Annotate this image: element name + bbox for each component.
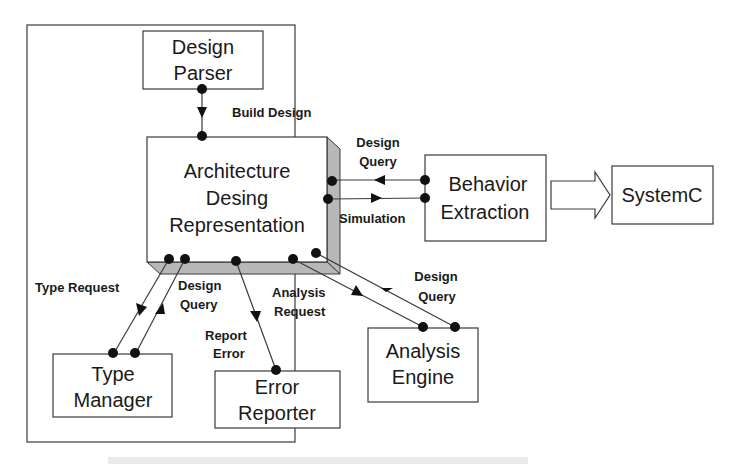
arrowhead-up-icon bbox=[155, 303, 165, 314]
analysis-engine-label-line2: Engine bbox=[392, 366, 454, 388]
arrowhead-left-icon bbox=[374, 175, 385, 185]
systemc-label: SystemC bbox=[621, 184, 702, 206]
behavior-design-query-label-line2: Query bbox=[359, 154, 397, 169]
design-parser-label-line1: Design bbox=[172, 36, 234, 58]
type-design-query-label-line1: Design bbox=[178, 278, 221, 293]
port-dot bbox=[327, 176, 337, 186]
architecture-label-line1: Architecture bbox=[184, 160, 291, 182]
simulation-label: Simulation bbox=[339, 211, 406, 226]
node-systemc: SystemC bbox=[612, 166, 713, 224]
node-design-parser: Design Parser bbox=[143, 31, 263, 89]
port-dot bbox=[450, 322, 460, 332]
port-dot bbox=[420, 175, 430, 185]
port-dot bbox=[231, 256, 241, 266]
port-dot bbox=[418, 322, 428, 332]
behavior-extraction-label-line2: Extraction bbox=[441, 201, 530, 223]
analysis-engine-label-line1: Analysis bbox=[386, 340, 460, 362]
port-dot bbox=[323, 194, 333, 204]
port-dot bbox=[197, 84, 207, 94]
analysis-design-query-label-line2: Query bbox=[418, 289, 456, 304]
architecture-label-line3: Representation bbox=[169, 214, 305, 236]
analysis-design-query-label-line1: Design bbox=[414, 269, 457, 284]
arrowhead-left-icon bbox=[381, 288, 393, 292]
error-reporter-label-line1: Error bbox=[255, 376, 300, 398]
port-dot bbox=[420, 193, 430, 203]
port-dot bbox=[197, 131, 207, 141]
port-dot bbox=[130, 348, 140, 358]
type-manager-label-line2: Manager bbox=[74, 389, 153, 411]
arrowhead-down-icon bbox=[197, 107, 207, 118]
node-error-reporter: Error Reporter bbox=[215, 371, 340, 428]
port-dot bbox=[108, 348, 118, 358]
architecture-diagram: Design Parser Architecture Desing Repres… bbox=[0, 0, 734, 464]
node-type-manager: Type Manager bbox=[53, 354, 172, 417]
build-design-label: Build Design bbox=[232, 105, 312, 120]
design-parser-label-line2: Parser bbox=[174, 62, 233, 84]
node-behavior-extraction: Behavior Extraction bbox=[425, 155, 546, 241]
edge-build-design bbox=[197, 84, 207, 141]
report-error-label-line2: Error bbox=[213, 346, 245, 361]
edge-behavior-design-query bbox=[327, 175, 430, 186]
arrowhead-right-icon bbox=[371, 193, 382, 203]
architecture-label-line2: Desing bbox=[206, 187, 268, 209]
type-request-label: Type Request bbox=[35, 280, 120, 295]
analysis-request-label-line1: Analysis bbox=[272, 285, 325, 300]
node-analysis-engine: Analysis Engine bbox=[368, 328, 478, 402]
port-dot bbox=[180, 254, 190, 264]
port-dot bbox=[288, 254, 298, 264]
behavior-design-query-label-line1: Design bbox=[356, 135, 399, 150]
type-design-query-label-line2: Query bbox=[180, 297, 218, 312]
behavior-extraction-label-line1: Behavior bbox=[449, 173, 528, 195]
output-arrow-icon bbox=[551, 172, 610, 218]
arrowhead-down-icon bbox=[250, 311, 261, 322]
error-reporter-label-line2: Reporter bbox=[238, 402, 316, 424]
report-error-label-line1: Report bbox=[205, 328, 248, 343]
architecture-box-side-shadow bbox=[327, 137, 340, 274]
analysis-request-label-line2: Request bbox=[274, 304, 326, 319]
port-dot bbox=[164, 254, 174, 264]
type-manager-label-line1: Type bbox=[91, 363, 134, 385]
port-dot bbox=[311, 248, 321, 258]
port-dot bbox=[271, 365, 281, 375]
caption-band-faint bbox=[108, 457, 528, 464]
